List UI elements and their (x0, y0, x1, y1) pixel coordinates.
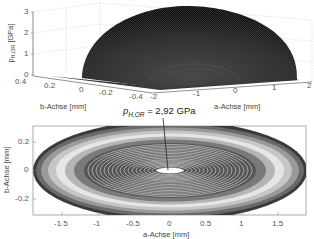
contour-plot-canvas (0, 0, 314, 239)
x-tick-0: 0 (167, 220, 171, 228)
y-tick-0: 0 (24, 166, 28, 174)
y-tick-0.2: 0.2 (18, 138, 29, 146)
x-tick-0.5: 0.5 (200, 220, 211, 228)
x-tick-neg0.5: -0.5 (126, 220, 140, 228)
x-tick-neg1.5: -1.5 (54, 220, 68, 228)
x-tick-1.5: 1.5 (272, 220, 283, 228)
a-axis-label: a-Achse [mm] (143, 231, 189, 239)
b-axis-label: b-Achse [mm] (3, 147, 11, 193)
x-tick-neg1: -1 (93, 220, 100, 228)
x-tick-1: 1 (239, 220, 243, 228)
y-tick-neg0.2: -0.2 (15, 195, 29, 203)
